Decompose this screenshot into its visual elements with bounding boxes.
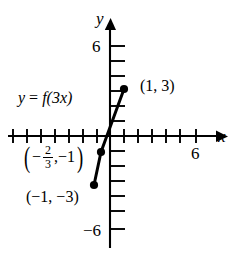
point-marker-1-3: [120, 85, 128, 93]
annotation-minus-sign: −: [32, 149, 41, 165]
point-marker-neg2over3-neg1: [97, 148, 105, 156]
annotation-second-coordinate: −1: [58, 149, 75, 165]
x-axis-tick-label-6: 6: [191, 145, 200, 162]
function-label-equals: =: [25, 89, 42, 106]
y-axis-arrowhead: [105, 18, 116, 30]
point-annotation-neg1-neg3: (−1, −3): [26, 189, 79, 205]
y-axis-tick-label-negative-6: −6: [83, 222, 101, 239]
point-annotation-neg2over3-neg1: (− 2 3 , −1): [22, 142, 85, 172]
point-annotation-1-3: (1, 3): [140, 78, 175, 94]
point-marker-neg1-neg3: [90, 181, 98, 189]
y-axis-tick-label-6: 6: [92, 38, 101, 55]
annotation-close-paren: ): [77, 142, 83, 172]
function-label-argument: (3x): [47, 89, 73, 106]
y-axis-ticks: [110, 46, 125, 229]
function-equation-label: y = f(3x): [18, 90, 72, 106]
y-axis-label: y: [96, 10, 104, 27]
annotation-open-paren: (: [24, 142, 30, 172]
x-axis-label: x: [218, 128, 226, 145]
fraction-denominator: 3: [43, 157, 53, 170]
graph-figure: y x 6 −6 6 y = f(3x) (1, 3) (− 2 3 , −1)…: [0, 0, 238, 258]
coordinate-plane: [0, 0, 238, 258]
annotation-fraction: 2 3: [43, 144, 53, 169]
fraction-numerator: 2: [43, 144, 53, 156]
